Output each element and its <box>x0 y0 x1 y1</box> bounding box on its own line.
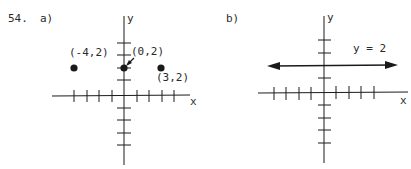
graph-b-axes <box>0 0 411 169</box>
x-axis-label-b: x <box>400 95 407 107</box>
y-axis-label-b: y <box>327 12 334 24</box>
right-arrowhead <box>385 61 398 69</box>
line-equation-label: y = 2 <box>353 43 386 55</box>
left-arrowhead <box>267 62 280 70</box>
x-axis <box>258 92 408 93</box>
line-y-equals-2 <box>272 65 393 66</box>
